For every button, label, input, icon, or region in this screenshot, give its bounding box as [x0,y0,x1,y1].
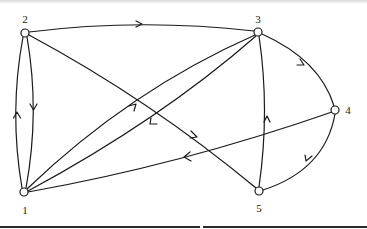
bottom-rule-right [203,226,367,228]
node-label-3: 3 [255,14,261,25]
edge-2-5 [29,35,256,188]
node-4 [331,106,339,114]
edge-4-5 [263,114,335,190]
arrow-4-5-icon [305,155,312,161]
arrow-3-1-icon [150,118,157,124]
node-label-4: 4 [345,105,351,116]
node-3 [254,28,262,36]
graph-canvas [0,0,367,229]
node-5 [255,187,263,195]
edge-2-1 [26,37,33,188]
edge-5-3 [259,36,265,187]
node-1 [20,188,28,196]
edge-1-3 [27,35,255,189]
node-label-2: 2 [22,14,28,25]
edge-2-3 [29,25,254,32]
node-label-1: 1 [22,205,28,216]
bottom-rule-left [0,226,200,228]
edge-3-4 [262,34,334,106]
arrow-1-2-icon [14,112,21,118]
node-label-5: 5 [256,203,262,214]
node-2 [21,29,29,37]
arrow-2-3-icon [136,21,142,27]
graph-figure: 1 2 3 4 5 [0,0,367,229]
